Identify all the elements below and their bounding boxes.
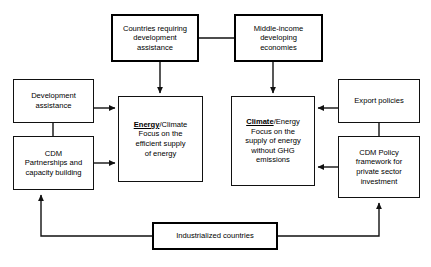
node-body: Focus on the supply of energy without GH… [245,127,301,165]
node-countries-requiring-development-assistance[interactable]: Countries requiring development assistan… [111,14,199,62]
node-cdm-partnerships-and-capacity-building[interactable]: CDM Partnerships and capacity building [13,136,94,190]
node-label: CDM Policy framework for private sector … [354,148,404,186]
link-industrial-to-cdmpolicy [278,203,379,236]
node-body: Focus on the efficient supply of energy [135,129,185,157]
node-label: CDM Partnerships and capacity building [23,149,84,178]
node-development-assistance[interactable]: Development assistance [13,79,94,123]
node-headline-suffix: /Energy [274,117,300,126]
node-label: Countries requiring development assistan… [121,24,189,53]
node-label: Development assistance [29,91,78,110]
node-energy-climate[interactable]: Energy/Climate Focus on the efficient su… [118,96,203,182]
node-headline-climate: Climate [246,117,273,126]
node-label-group: Climate/Energy Focus on the supply of en… [243,117,303,165]
node-export-policies[interactable]: Export policies [338,79,420,123]
node-label-group: Energy/Climate Focus on the efficient su… [132,120,190,158]
node-headline-energy: Energy [134,120,160,129]
node-label: Middle-income developing economies [252,24,305,53]
flow-diagram: Countries requiring development assistan… [0,0,431,267]
node-label: Industrialized countries [174,231,256,241]
node-cdm-policy-framework[interactable]: CDM Policy framework for private sector … [338,136,420,198]
node-headline-suffix: /Climate [159,120,187,129]
node-industrialized-countries[interactable]: Industrialized countries [152,222,278,250]
node-middle-income-developing-economies[interactable]: Middle-income developing economies [234,14,323,62]
node-label: Export policies [352,96,405,106]
node-climate-energy[interactable]: Climate/Energy Focus on the supply of en… [231,96,315,186]
link-industrial-to-cdmpart [41,195,152,236]
